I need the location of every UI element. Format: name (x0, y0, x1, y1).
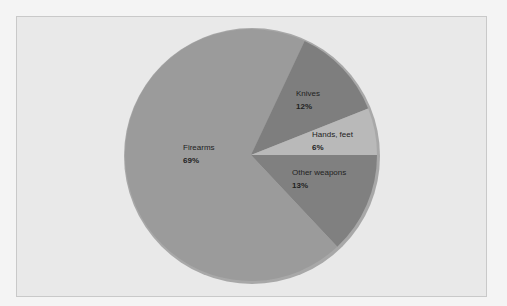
pie-chart (0, 0, 507, 306)
label-firearms-name: Firearms (183, 141, 215, 154)
label-knives: Knives 12% (296, 87, 320, 113)
label-hands-feet-pct: 6% (312, 141, 353, 154)
label-firearms: Firearms 69% (183, 141, 215, 167)
label-other-weapons-name: Other weapons (292, 166, 346, 179)
label-hands-feet-name: Hands, feet (312, 128, 353, 141)
label-knives-name: Knives (296, 87, 320, 100)
label-knives-pct: 12% (296, 100, 320, 113)
label-other-weapons: Other weapons 13% (292, 166, 346, 192)
label-firearms-pct: 69% (183, 154, 215, 167)
label-hands-feet: Hands, feet 6% (312, 128, 353, 154)
label-other-weapons-pct: 13% (292, 179, 346, 192)
